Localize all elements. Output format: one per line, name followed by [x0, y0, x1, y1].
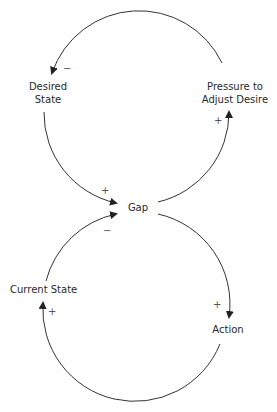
polarity-gap-to-action: +	[213, 300, 221, 310]
polarity-gap-to-pressure: +	[214, 116, 222, 126]
node-pressure-to-adjust-desire: Pressure to Adjust Desire	[200, 80, 270, 106]
node-pressure-line1: Pressure to	[200, 80, 270, 93]
node-action: Action	[208, 323, 248, 336]
node-desired-state-line2: State	[28, 93, 68, 106]
node-desired-state-line1: Desired	[28, 80, 68, 93]
arrow-pressure-to-desired	[52, 11, 222, 73]
node-gap: Gap	[124, 201, 152, 214]
polarity-current-to-gap: −	[103, 226, 111, 236]
polarity-pressure-to-desired: −	[63, 64, 71, 74]
node-pressure-line2: Adjust Desire	[200, 93, 270, 106]
arrow-action-to-current	[43, 303, 220, 401]
node-current-state: Current State	[10, 283, 76, 296]
node-desired-state: Desired State	[28, 80, 68, 106]
polarity-action-to-current: +	[48, 307, 56, 317]
polarity-desired-to-gap: +	[101, 186, 109, 196]
